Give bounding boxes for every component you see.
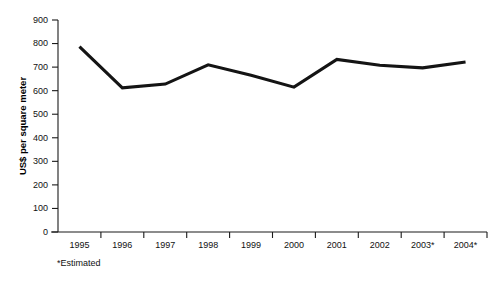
x-tick-label: 1996	[112, 240, 132, 250]
x-tick-label: 2000	[284, 240, 304, 250]
y-axis-title: US$ per square meter	[17, 77, 28, 176]
x-tick-label: 1997	[155, 240, 175, 250]
y-tick-label: 800	[33, 38, 48, 48]
x-tick-label: 2003*	[411, 240, 435, 250]
y-tick-label: 500	[33, 109, 48, 119]
y-tick-label: 400	[33, 133, 48, 143]
x-tick-label: 2004*	[454, 240, 478, 250]
y-tick-label: 900	[33, 15, 48, 25]
y-tick-label: 600	[33, 86, 48, 96]
line-chart: 0100200300400500600700800900199519961997…	[0, 0, 504, 283]
data-series-line	[79, 47, 465, 88]
x-tick-label: 1999	[241, 240, 261, 250]
x-tick-label: 2002	[370, 240, 390, 250]
y-tick-label: 200	[33, 180, 48, 190]
y-tick-label: 100	[33, 203, 48, 213]
x-tick-label: 2001	[327, 240, 347, 250]
chart-plot-area: 0100200300400500600700800900199519961997…	[0, 0, 504, 283]
x-tick-label: 1995	[69, 240, 89, 250]
y-tick-label: 0	[43, 227, 48, 237]
y-tick-label: 700	[33, 62, 48, 72]
y-tick-label: 300	[33, 156, 48, 166]
x-tick-label: 1998	[198, 240, 218, 250]
footnote-estimated: *Estimated	[57, 258, 101, 268]
